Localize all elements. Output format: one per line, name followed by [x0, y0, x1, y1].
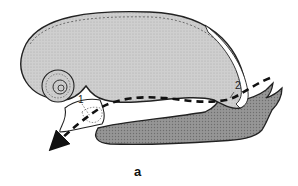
- label-1: 1: [78, 94, 84, 105]
- snail-illustration: [0, 0, 298, 186]
- shell-spiral: [42, 70, 74, 102]
- label-2: 2: [235, 80, 241, 91]
- figure-caption: a: [134, 164, 141, 179]
